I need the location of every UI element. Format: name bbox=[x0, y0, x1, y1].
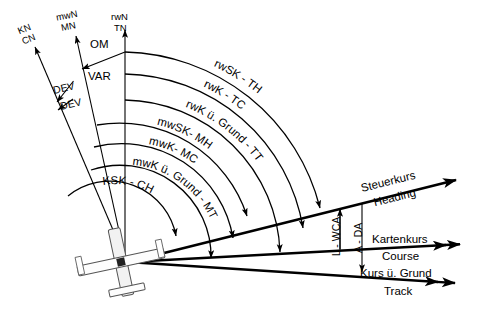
true-north-label-de: rwN bbox=[111, 11, 128, 22]
course-label-de: Kartenkurs bbox=[372, 233, 428, 245]
variation-label-var: VAR bbox=[88, 70, 111, 82]
true-north-label-en: TN bbox=[114, 22, 127, 33]
aircraft-center-marker bbox=[116, 257, 125, 266]
course-label-en: Course bbox=[382, 250, 419, 262]
navigation-angle-diagram: KN CN mwN MN rwN TN OM VAR DEV DEV bbox=[0, 0, 482, 311]
course-vector-arrow2 bbox=[440, 244, 460, 245]
variation-label-om: OM bbox=[90, 38, 109, 50]
canvas-background bbox=[0, 0, 482, 311]
da-label: A - DA bbox=[352, 223, 364, 253]
wca-label: L - WCA bbox=[330, 217, 342, 256]
track-label-en: Track bbox=[384, 285, 413, 297]
track-vector-arrow2 bbox=[432, 282, 455, 283]
track-label-de: Kurs ü. Grund bbox=[360, 267, 432, 279]
